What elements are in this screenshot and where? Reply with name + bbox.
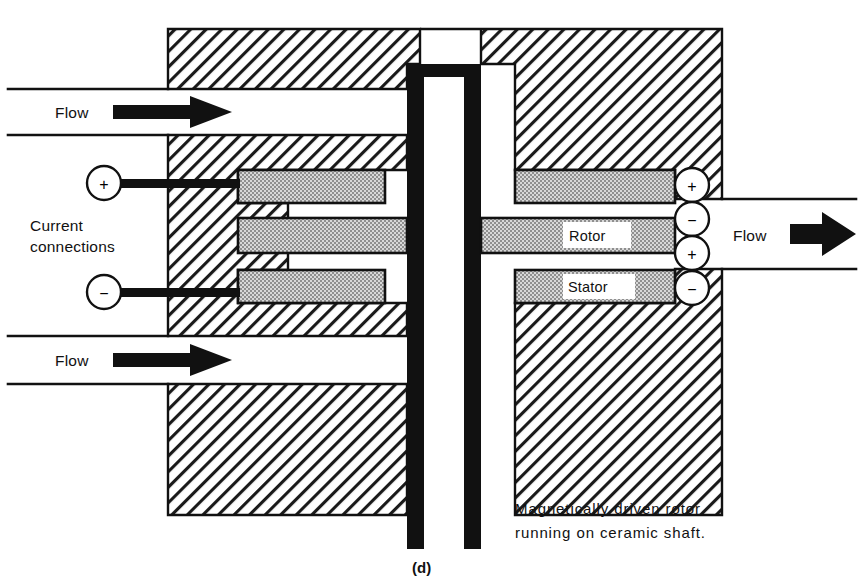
- stator-bar-lower-left: [238, 270, 385, 303]
- terminal-sign: +: [99, 176, 108, 193]
- housing-block-bottom-left: [168, 384, 407, 515]
- rotor-callout: Rotor: [563, 222, 631, 248]
- housing-block-top-left: [168, 29, 420, 89]
- shaft-bar-right: [464, 64, 481, 549]
- shaft-bar-left: [407, 64, 424, 549]
- lead-wire-positive: [118, 179, 240, 188]
- terminal-right-positive-lower[interactable]: +: [675, 236, 709, 270]
- stator-callout: Stator: [563, 274, 635, 299]
- flow-label-bottom-left: Flow: [55, 352, 89, 369]
- terminal-sign: −: [99, 285, 108, 302]
- current-connections-label-line2: connections: [30, 238, 115, 255]
- stator-bar-upper-right: [515, 170, 675, 203]
- terminal-right-negative-bottom[interactable]: −: [675, 271, 709, 305]
- terminal-sign: −: [687, 212, 696, 229]
- shaft-top-cap: [407, 64, 481, 77]
- terminal-left-positive[interactable]: +: [87, 166, 121, 200]
- stator-label: Stator: [568, 279, 608, 295]
- terminal-sign: −: [687, 281, 696, 298]
- terminal-left-negative[interactable]: −: [87, 275, 121, 309]
- flow-label-top-left: Flow: [55, 104, 89, 121]
- terminal-right-positive-top[interactable]: +: [675, 168, 709, 202]
- caption-line-2: running on ceramic shaft.: [515, 524, 706, 541]
- terminal-sign: +: [687, 246, 696, 263]
- figure-label: (d): [412, 559, 431, 576]
- current-connections-label-line1: Current: [30, 217, 84, 234]
- terminal-right-negative-upper[interactable]: −: [675, 202, 709, 236]
- stator-bar-upper-left: [238, 170, 385, 203]
- terminal-sign: +: [687, 178, 696, 195]
- caption-line-1: Magnetically driven rotor: [515, 500, 701, 517]
- pump-cross-section-diagram: + − + − + −: [0, 0, 864, 587]
- figure-canvas: + − + − + −: [0, 0, 864, 587]
- rotor-bar-left: [238, 218, 407, 253]
- rotor-label: Rotor: [569, 228, 605, 244]
- lead-wire-negative: [118, 288, 240, 297]
- flow-label-right: Flow: [733, 227, 767, 244]
